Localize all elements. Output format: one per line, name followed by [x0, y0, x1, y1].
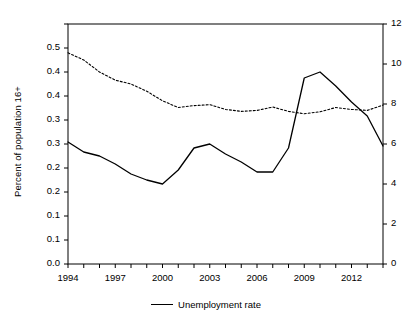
y-axis-right-tick-label: 6	[391, 137, 412, 148]
chart-legend: Unemployment rate	[0, 299, 412, 310]
y-axis-left-tick-label: 0.1	[24, 209, 60, 220]
chart-figure: Percent of population 16+ 0.00.10.10.20.…	[0, 0, 412, 324]
legend-label-unemployment-rate: Unemployment rate	[178, 299, 261, 310]
y-axis-right-tick-label: 12	[391, 17, 412, 28]
y-axis-right-tick-label: 8	[391, 97, 412, 108]
series-line	[68, 72, 383, 184]
y-axis-right-tick-label: 2	[391, 217, 412, 228]
x-axis-tick-label: 2003	[190, 272, 230, 283]
x-axis-tick-label: 2012	[332, 272, 372, 283]
y-axis-left-tick-label: 0.4	[24, 65, 60, 76]
y-axis-left-tick-label: 0.0	[24, 257, 60, 268]
y-axis-left-tick-label: 0.3	[24, 137, 60, 148]
y-axis-right-tick-label: 10	[391, 57, 412, 68]
series-line	[68, 53, 383, 114]
x-axis-tick-label: 2006	[237, 272, 277, 283]
x-axis-tick-label: 2000	[143, 272, 183, 283]
y-axis-left-tick-label: 0.2	[24, 185, 60, 196]
y-axis-right-tick-label: 4	[391, 177, 412, 188]
y-axis-left-tick-label: 0.2	[24, 161, 60, 172]
y-axis-left-tick-label: 0.4	[24, 89, 60, 100]
x-axis-tick-label: 2009	[284, 272, 324, 283]
y-axis-left-tick-label: 0.5	[24, 41, 60, 52]
y-axis-right-tick-label: 0	[391, 257, 412, 268]
y-axis-left-tick-label: 0.3	[24, 113, 60, 124]
legend-line-swatch	[151, 304, 173, 305]
x-axis-tick-label: 1997	[95, 272, 135, 283]
x-axis-tick-label: 1994	[48, 272, 88, 283]
y-axis-left-tick-label: 0.1	[24, 233, 60, 244]
